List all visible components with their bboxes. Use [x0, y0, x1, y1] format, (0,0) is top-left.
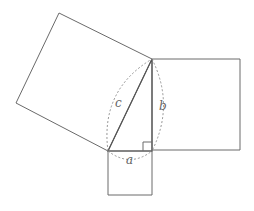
- right-angle-marker: [143, 142, 152, 151]
- label-b: b: [159, 99, 167, 113]
- pythagorean-diagram: c b a: [0, 0, 254, 211]
- label-c: c: [115, 96, 122, 110]
- label-a: a: [126, 153, 133, 167]
- square-on-c: [16, 13, 152, 151]
